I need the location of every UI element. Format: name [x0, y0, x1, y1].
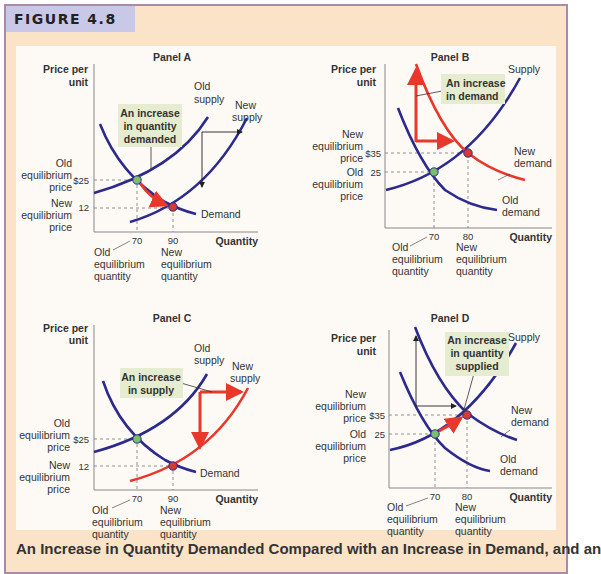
- svg-text:unit: unit: [69, 334, 89, 346]
- svg-text:equilibrium: equilibrium: [94, 258, 145, 270]
- svg-text:New: New: [49, 459, 70, 471]
- svg-text:Old: Old: [94, 246, 111, 258]
- panel-d-xlabel: Quantity: [509, 491, 552, 503]
- svg-text:70: 70: [132, 235, 143, 246]
- svg-text:quantity: quantity: [92, 528, 130, 540]
- svg-text:$25: $25: [73, 175, 89, 186]
- svg-text:New: New: [51, 197, 72, 209]
- svg-text:12: 12: [78, 202, 89, 213]
- svg-text:in quantity: in quantity: [450, 347, 503, 359]
- svg-text:Price per: Price per: [331, 63, 376, 75]
- svg-text:Old: Old: [56, 157, 73, 169]
- svg-text:New: New: [160, 504, 181, 516]
- svg-text:in demand: in demand: [446, 90, 499, 102]
- panel-d-annotation: An increase: [447, 334, 507, 346]
- panel-d-title: Panel D: [431, 312, 470, 324]
- svg-text:Old: Old: [54, 417, 71, 429]
- panel-c-old-equilibrium-point: [133, 435, 141, 443]
- svg-text:Price per: Price per: [331, 332, 376, 344]
- panel-d-old-equilibrium-point: [431, 430, 439, 438]
- panel-a-annotation: An increase: [120, 107, 180, 119]
- svg-text:90: 90: [168, 235, 179, 246]
- svg-text:supplied: supplied: [455, 360, 498, 372]
- svg-text:Price per: Price per: [43, 322, 88, 334]
- panel-d-supply-label: Supply: [508, 331, 541, 343]
- panel-a: Panel A Price per unit An increase in qu…: [21, 51, 263, 282]
- svg-text:Old: Old: [347, 166, 364, 178]
- panel-c-annotation: An increase: [121, 371, 181, 383]
- panel-b-title: Panel B: [431, 51, 470, 63]
- svg-text:$25: $25: [73, 434, 89, 445]
- svg-text:supply: supply: [194, 354, 225, 366]
- svg-text:supply: supply: [194, 93, 225, 105]
- panel-a-old-equilibrium-point: [133, 176, 141, 184]
- svg-text:equilibrium: equilibrium: [456, 253, 507, 265]
- svg-text:equilibrium: equilibrium: [21, 169, 72, 181]
- svg-text:in supply: in supply: [128, 384, 174, 396]
- panel-b-supply-label: Supply: [508, 63, 541, 75]
- panel-b-old-equilibrium-point: [430, 168, 438, 176]
- panel-a-ylabel: Price per: [43, 63, 88, 75]
- panel-b: Panel B Price per unit An increase in de…: [312, 51, 552, 277]
- svg-text:price: price: [49, 181, 72, 193]
- panel-a-xlabel: Quantity: [215, 235, 258, 247]
- svg-text:equilibrium: equilibrium: [387, 513, 438, 525]
- svg-text:equilibrium: equilibrium: [19, 471, 70, 483]
- svg-text:New: New: [345, 388, 366, 400]
- svg-text:equilibrium: equilibrium: [160, 516, 211, 528]
- svg-text:supply: supply: [232, 111, 263, 123]
- svg-text:Old: Old: [387, 501, 404, 513]
- panel-d-movement-arrow: [439, 418, 461, 431]
- svg-text:unit: unit: [357, 345, 377, 357]
- svg-text:Old: Old: [350, 428, 367, 440]
- panel-c-title: Panel C: [153, 312, 192, 324]
- panel-a-demand-label: Demand: [201, 208, 241, 220]
- svg-text:demand: demand: [511, 416, 549, 428]
- svg-text:equilibrium: equilibrium: [392, 253, 443, 265]
- svg-text:equilibrium: equilibrium: [312, 178, 363, 190]
- svg-text:New: New: [161, 246, 182, 258]
- svg-text:demand: demand: [514, 157, 552, 169]
- svg-text:equilibrium: equilibrium: [312, 140, 363, 152]
- svg-text:demand: demand: [502, 206, 540, 218]
- svg-text:quantity: quantity: [161, 270, 199, 282]
- svg-text:equilibrium: equilibrium: [455, 513, 506, 525]
- svg-text:equilibrium: equilibrium: [19, 429, 70, 441]
- svg-text:quantity: quantity: [392, 265, 430, 277]
- panel-d-new-equilibrium-point: [463, 411, 471, 419]
- svg-text:price: price: [47, 483, 70, 495]
- svg-text:demanded: demanded: [124, 133, 177, 145]
- svg-text:quantity: quantity: [456, 265, 494, 277]
- svg-text:90: 90: [168, 493, 179, 504]
- panel-c-new-equilibrium-point: [169, 462, 177, 470]
- svg-text:New: New: [342, 128, 363, 140]
- svg-text:demand: demand: [500, 465, 538, 477]
- svg-text:New: New: [456, 241, 477, 253]
- svg-text:price: price: [340, 152, 363, 164]
- panel-c: Panel C Price per unit An increase in su…: [19, 312, 261, 540]
- svg-text:equilibrium: equilibrium: [161, 258, 212, 270]
- svg-text:70: 70: [430, 491, 441, 502]
- svg-text:25: 25: [374, 429, 385, 440]
- svg-text:price: price: [343, 412, 366, 424]
- svg-text:unit: unit: [357, 76, 377, 88]
- svg-text:New: New: [514, 145, 535, 157]
- svg-text:Old: Old: [194, 80, 211, 92]
- svg-text:equilibrium: equilibrium: [315, 400, 366, 412]
- svg-text:New: New: [455, 501, 476, 513]
- panel-a-title: Panel A: [153, 51, 192, 63]
- svg-text:Old: Old: [92, 504, 109, 516]
- panel-b-old-demand-curve: [398, 108, 497, 210]
- svg-text:unit: unit: [69, 76, 89, 88]
- svg-text:$35: $35: [369, 410, 385, 421]
- panel-b-xlabel: Quantity: [509, 231, 552, 243]
- svg-text:price: price: [49, 221, 72, 233]
- svg-text:quantity: quantity: [94, 270, 132, 282]
- svg-text:Old: Old: [500, 453, 517, 465]
- svg-text:Old: Old: [502, 194, 519, 206]
- svg-text:equilibrium: equilibrium: [315, 440, 366, 452]
- panel-a-new-equilibrium-point: [169, 203, 177, 211]
- svg-text:supply: supply: [230, 372, 261, 384]
- svg-text:equilibrium: equilibrium: [21, 209, 72, 221]
